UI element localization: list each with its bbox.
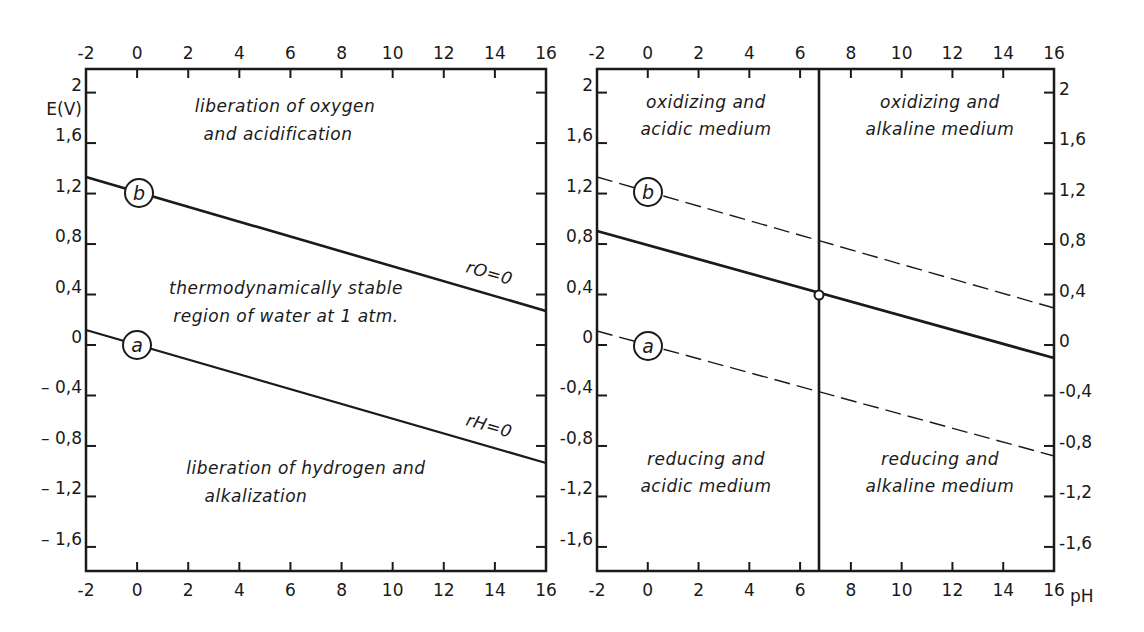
x-tick-label: 2	[693, 580, 704, 600]
x-tick-label: 0	[642, 43, 653, 63]
x-tick-label: 0	[132, 43, 143, 63]
svg-text:a: a	[131, 334, 143, 356]
x-tick-label: 4	[744, 43, 755, 63]
x-tick-label: 4	[234, 580, 245, 600]
x-tick-label: 12	[942, 43, 964, 63]
x-tick-label: 2	[183, 43, 194, 63]
y-tick-label: -0,8	[560, 428, 593, 448]
x-tick-label: 16	[1043, 43, 1065, 63]
y-tick-label: 0,4	[1059, 281, 1086, 301]
left-x-ticks-bottom: -20246810121416	[78, 562, 557, 600]
x-tick-label: 16	[1043, 580, 1065, 600]
x-tick-label: 14	[484, 43, 506, 63]
y-tick-label: -0,4	[1059, 381, 1092, 401]
right-panel: -20246810121416 -20246810121416 21,61,20…	[560, 43, 1094, 606]
y-tick-label: -1,6	[1059, 533, 1092, 553]
neutral-point-marker	[815, 291, 824, 300]
y-tick-label: 0,8	[1059, 230, 1086, 250]
y-tick-label: -1,2	[1059, 482, 1092, 502]
left-y-ticks-right	[536, 93, 546, 547]
y-tick-label: 0	[582, 327, 593, 347]
region-stable-line2: region of water at 1 atm.	[173, 306, 398, 326]
y-tick-label: -1,6	[560, 529, 593, 549]
x-tick-label: 8	[336, 43, 347, 63]
y-tick-label: 0,4	[566, 277, 593, 297]
x-tick-label: 14	[992, 43, 1014, 63]
x-tick-label: 12	[433, 580, 455, 600]
region-red-alk-line2: alkaline medium	[866, 476, 1015, 496]
region-stable-line1: thermodynamically stable	[169, 278, 403, 298]
svg-text:b: b	[642, 181, 654, 203]
line-b-dashed	[597, 177, 1054, 308]
x-tick-label: 0	[642, 580, 653, 600]
region-red-acid-line2: acidic medium	[640, 476, 771, 496]
y-tick-label: 0,8	[566, 226, 593, 246]
y-tick-label: 1,6	[566, 125, 593, 145]
x-tick-label: 12	[942, 580, 964, 600]
x-tick-label: 10	[382, 43, 404, 63]
x-tick-label: 16	[535, 43, 557, 63]
left-x-ticks-top: -20246810121416	[78, 43, 557, 78]
x-tick-label: 0	[132, 580, 143, 600]
svg-text:b: b	[133, 182, 145, 204]
y-tick-label: -0,8	[1059, 432, 1092, 452]
x-tick-label: 6	[285, 580, 296, 600]
x-tick-label: 10	[891, 580, 913, 600]
x-tick-label: 10	[382, 580, 404, 600]
region-oxygen-line2: and acidification	[204, 124, 353, 144]
x-tick-label: 16	[535, 580, 557, 600]
x-tick-label: 8	[336, 580, 347, 600]
region-ox-alk-line2: alkaline medium	[866, 119, 1015, 139]
region-hydrogen-line1: liberation of hydrogen and	[186, 458, 425, 478]
circle-label-b-right: b	[634, 178, 662, 206]
y-tick-label: 1,6	[55, 125, 82, 145]
x-tick-label: 6	[795, 580, 806, 600]
region-oxygen-line1: liberation of oxygen	[195, 96, 375, 116]
x-tick-label: -2	[589, 43, 606, 63]
x-tick-label: -2	[589, 580, 606, 600]
x-tick-label: 10	[891, 43, 913, 63]
x-tick-label: 2	[693, 43, 704, 63]
y-tick-label: 2	[582, 75, 593, 95]
y-tick-label: 1,2	[55, 176, 82, 196]
circle-label-a: a	[123, 331, 151, 359]
y-tick-label: – 1,6	[41, 529, 82, 549]
x-tick-label: 4	[234, 43, 245, 63]
region-ox-alk-line1: oxidizing and	[880, 92, 1000, 112]
y-tick-label: -0,4	[560, 377, 593, 397]
left-panel: -20246810121416 -20246810121416 21,61,20…	[41, 43, 557, 600]
pourbaix-diagram: -20246810121416 -20246810121416 21,61,20…	[0, 0, 1144, 632]
right-x-ticks-top: -20246810121416	[589, 43, 1065, 78]
circle-label-b: b	[125, 179, 153, 207]
line-b-label: rO=0	[464, 257, 515, 289]
x-tick-label: -2	[78, 43, 95, 63]
y-tick-label: 0	[71, 327, 82, 347]
x-tick-label: 14	[484, 580, 506, 600]
line-a-hydrogen	[86, 330, 546, 463]
y-tick-label: – 1,2	[41, 478, 82, 498]
x-tick-label: 4	[744, 580, 755, 600]
y-tick-label: 2	[1059, 79, 1070, 99]
y-tick-label: 1,2	[566, 176, 593, 196]
x-tick-label: 6	[795, 43, 806, 63]
x-tick-label: 6	[285, 43, 296, 63]
y-tick-label: 0,8	[55, 226, 82, 246]
line-neutral	[597, 231, 1054, 358]
x-axis-title: pH	[1070, 586, 1094, 606]
region-ox-acid-line1: oxidizing and	[646, 92, 766, 112]
circle-label-a-right: a	[634, 332, 662, 360]
y-tick-label: 1,2	[1059, 180, 1086, 200]
x-tick-label: 2	[183, 580, 194, 600]
region-red-alk-line1: reducing and	[881, 449, 999, 469]
x-tick-label: -2	[78, 580, 95, 600]
region-hydrogen-line2: alkalization	[205, 486, 308, 506]
region-ox-acid-line2: acidic medium	[640, 119, 771, 139]
y-tick-label: 1,6	[1059, 129, 1086, 149]
y-tick-label: – 0,8	[41, 428, 82, 448]
x-tick-label: 12	[433, 43, 455, 63]
y-tick-label: 0,4	[55, 277, 82, 297]
right-y-ticks-right: 21,61,20,80,40-0,4-0,8-1,2-1,6	[1044, 79, 1092, 553]
right-y-ticks-left: 21,61,20,80,40-0,4-0,8-1,2-1,6	[560, 75, 607, 549]
x-tick-label: 8	[845, 580, 856, 600]
right-x-ticks-bottom: -20246810121416	[589, 562, 1065, 600]
